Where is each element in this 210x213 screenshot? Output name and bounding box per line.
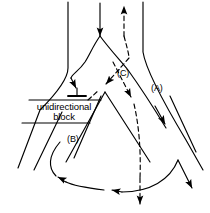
unidirectional-block-label: unidirectional block	[31, 102, 97, 122]
reentry-circuit-figure: unidirectional block (A) (B) (C)	[0, 0, 210, 213]
pathway-c-label: (C)	[117, 69, 129, 78]
vessel-wall-right-inner	[170, 96, 196, 152]
vessel-wall-left-outer	[18, 2, 68, 168]
bottom-loop-arrow-left	[58, 177, 66, 182]
pathway-a-label: (A)	[151, 84, 163, 93]
bottom-loop-curve-left	[66, 182, 104, 190]
pathway-b-label: (B)	[67, 135, 79, 144]
blocked-branch-line	[71, 78, 76, 88]
reentry-dashed-from-fork	[124, 36, 129, 57]
bottom-loop-tail-left	[50, 142, 60, 176]
bottom-loop-curve	[122, 160, 178, 192]
inner-v-right-limb	[105, 92, 150, 162]
right-exit-arrow	[178, 160, 192, 188]
branch-fork-right-limb	[100, 36, 166, 128]
bottom-loop-arrow-mid	[112, 190, 122, 192]
branch-fork-left-limb	[71, 36, 100, 78]
block-label-line2: block	[31, 112, 97, 122]
reentry-dashed-upleft-tail	[88, 90, 99, 100]
pathway-a-arrow	[155, 106, 165, 124]
